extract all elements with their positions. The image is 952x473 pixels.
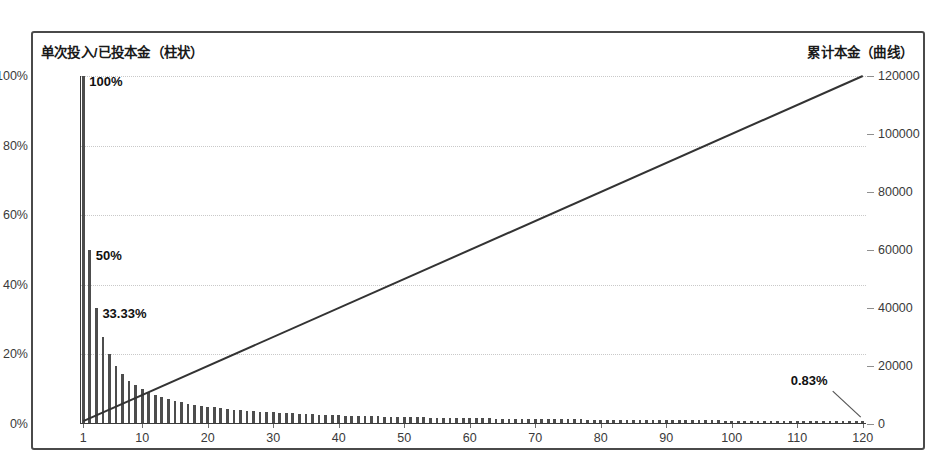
right-axis-tick-mark (867, 366, 874, 367)
right-axis-tick-label: 0 (878, 417, 885, 431)
line-series (80, 76, 866, 424)
plot-area: 0%20%40%60%80%100% 020000400006000080000… (80, 76, 866, 424)
right-axis-tick-label: 100000 (878, 127, 920, 141)
x-axis-tick-mark (666, 424, 667, 428)
x-axis-tick-mark (339, 424, 340, 428)
data-label: 0.83% (791, 373, 828, 388)
x-axis-tick-label: 120 (852, 431, 873, 445)
right-axis-tick-label: 40000 (878, 301, 913, 315)
cumulative-principal-line (83, 76, 862, 421)
x-axis-tick-label: 20 (201, 431, 215, 445)
data-label: 50% (96, 248, 122, 263)
right-axis-tick-label: 80000 (878, 185, 913, 199)
bottom-axis-line (80, 423, 866, 424)
left-axis-tick-label: 20% (3, 347, 28, 361)
left-axis-tick-label: 40% (3, 278, 28, 292)
x-axis-tick-mark (273, 424, 274, 428)
x-axis-tick-label: 100 (721, 431, 742, 445)
data-label: 100% (89, 74, 122, 89)
x-axis-tick-label: 50 (397, 431, 411, 445)
x-axis-tick-label: 80 (594, 431, 608, 445)
left-axis-title: 单次投入/已投本金（柱状） (41, 41, 203, 61)
right-axis-tick-mark (867, 192, 874, 193)
x-axis-tick-mark (535, 424, 536, 428)
x-axis-tick-label: 10 (135, 431, 149, 445)
leader-line (833, 391, 861, 417)
left-axis-tick-label: 60% (3, 208, 28, 222)
chart-frame: 单次投入/已投本金（柱状） 累计本金（曲线） 0%20%40%60%80%100… (31, 31, 925, 450)
right-axis-tick-mark (867, 308, 874, 309)
right-axis-title: 累计本金（曲线） (807, 41, 913, 61)
x-axis-tick-mark (797, 424, 798, 428)
left-axis-line (80, 76, 81, 424)
x-axis-tick-label: 110 (787, 431, 807, 445)
x-axis-tick-label: 60 (463, 431, 477, 445)
x-axis-tick-label: 1 (80, 431, 87, 445)
right-axis-tick-mark (867, 134, 874, 135)
chart-screenshot: 单次投入/已投本金（柱状） 累计本金（曲线） 0%20%40%60%80%100… (0, 0, 952, 473)
x-axis-tick-mark (732, 424, 733, 428)
right-axis-tick-mark (867, 250, 874, 251)
x-axis-tick-mark (142, 424, 143, 428)
left-axis-tick-label: 0% (10, 417, 28, 431)
left-axis-tick-label: 80% (3, 139, 28, 153)
right-axis-tick-mark (867, 424, 874, 425)
right-axis-tick-label: 120000 (878, 69, 920, 83)
right-axis-tick-mark (867, 76, 874, 77)
x-axis-tick-mark (863, 424, 864, 428)
data-label: 33.33% (102, 306, 146, 321)
x-axis-tick-mark (404, 424, 405, 428)
x-axis-tick-label: 30 (266, 431, 280, 445)
right-axis-tick-label: 20000 (878, 359, 913, 373)
x-axis-tick-label: 40 (332, 431, 346, 445)
x-axis-tick-mark (601, 424, 602, 428)
x-axis-tick-label: 90 (659, 431, 673, 445)
x-axis-tick-mark (208, 424, 209, 428)
x-axis-tick-mark (83, 424, 84, 428)
right-axis-tick-label: 60000 (878, 243, 913, 257)
left-axis-tick-label: 100% (0, 69, 28, 83)
x-axis-tick-mark (470, 424, 471, 428)
x-axis-tick-label: 70 (528, 431, 542, 445)
